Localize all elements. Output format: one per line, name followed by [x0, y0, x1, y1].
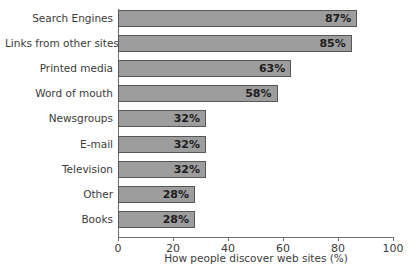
- bar: 32%: [118, 110, 206, 127]
- x-tick: [283, 237, 284, 241]
- bar: 28%: [118, 186, 195, 203]
- category-label: Word of mouth: [5, 86, 113, 101]
- x-axis-line: [118, 237, 394, 238]
- category-label: Other: [5, 187, 113, 202]
- bar: 28%: [118, 211, 195, 228]
- x-axis-title: How people discover web sites (%): [118, 252, 394, 265]
- bar-value-label: 58%: [245, 86, 271, 101]
- bar: 63%: [118, 60, 291, 77]
- bar-value-label: 87%: [325, 11, 351, 26]
- bar-row: Search Engines87%: [0, 10, 408, 27]
- bar-row: Word of mouth58%: [0, 85, 408, 102]
- bar-value-label: 28%: [163, 212, 189, 227]
- x-tick: [338, 237, 339, 241]
- bar-row: Books28%: [0, 211, 408, 228]
- bar-row: Printed media63%: [0, 60, 408, 77]
- x-tick: [118, 237, 119, 241]
- bar-value-label: 28%: [163, 187, 189, 202]
- bar-row: Other28%: [0, 186, 408, 203]
- category-label: E-mail: [5, 137, 113, 152]
- bar: 58%: [118, 85, 278, 102]
- category-label: Search Engines: [5, 11, 113, 26]
- category-label: Printed media: [5, 61, 113, 76]
- bar-value-label: 63%: [259, 61, 285, 76]
- category-label: Links from other sites: [5, 36, 113, 51]
- x-tick: [173, 237, 174, 241]
- bar: 32%: [118, 136, 206, 153]
- bar: 85%: [118, 35, 352, 52]
- bar-row: Television32%: [0, 161, 408, 178]
- plot-area: Search Engines87%Links from other sites8…: [0, 0, 408, 266]
- category-label: Newsgroups: [5, 111, 113, 126]
- category-label: Books: [5, 212, 113, 227]
- x-tick: [228, 237, 229, 241]
- bar-chart: Search Engines87%Links from other sites8…: [0, 0, 408, 266]
- bar-value-label: 32%: [174, 137, 200, 152]
- bar-row: Links from other sites85%: [0, 35, 408, 52]
- bar-value-label: 32%: [174, 111, 200, 126]
- bar-value-label: 32%: [174, 162, 200, 177]
- bar-value-label: 85%: [319, 36, 345, 51]
- bar: 32%: [118, 161, 206, 178]
- x-tick: [393, 237, 394, 241]
- bar: 87%: [118, 10, 357, 27]
- bar-row: Newsgroups32%: [0, 110, 408, 127]
- category-label: Television: [5, 162, 113, 177]
- bar-row: E-mail32%: [0, 136, 408, 153]
